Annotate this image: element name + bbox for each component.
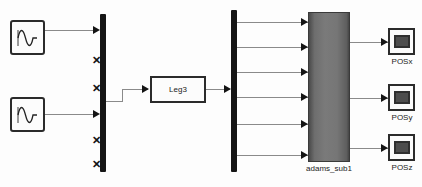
scope-label-posz: POSz [385,163,419,172]
leg3-label: Leg3 [169,85,187,94]
mux-port-x-5: ✕ [92,136,101,145]
scope-block-posx[interactable] [388,28,415,55]
wire-source2-to-mux [45,114,96,115]
leg3-subsystem-block[interactable]: Leg3 [150,76,206,103]
scope-icon [394,91,410,104]
scope-icon [394,141,410,154]
sine-source-block-1[interactable] [10,20,45,55]
wire-demux-to-adams-1 [237,22,308,23]
mux-port-x-6: ✕ [92,160,101,169]
wire-source1-to-mux [45,30,96,31]
scope-block-posz[interactable] [388,134,415,161]
wire-mux-out-jog [122,89,123,102]
scope-label-posx: POSx [385,57,419,66]
adams-sub1-label: adams_sub1 [298,164,360,173]
adams-input-arrow-2 [301,43,308,51]
adams-sub1-block[interactable] [308,12,350,162]
mux-port-arrow-4 [93,110,100,118]
adams-input-arrow-4 [301,93,308,101]
wire-demux-to-adams-6 [237,155,308,156]
block-diagram-canvas: ✕ ✕ ✕ ✕ Leg3 adams_sub1 POSx POS [0,0,422,187]
sine-source-block-2[interactable] [10,97,45,132]
demux-input-arrow [224,85,231,93]
sine-wave-icon [15,104,40,126]
mux-port-arrow-1 [93,26,100,34]
adams-input-arrow-6 [301,151,308,159]
wire-demux-to-adams-5 [237,124,308,125]
posy-input-arrow [381,94,388,102]
adams-input-arrow-5 [301,120,308,128]
scope-icon [394,35,410,48]
adams-input-arrow-3 [301,68,308,76]
posx-input-arrow [381,38,388,46]
output-demux-bar[interactable] [231,10,237,172]
scope-block-posy[interactable] [388,84,415,111]
scope-label-posy: POSy [385,113,419,122]
wire-demux-to-adams-2 [237,47,308,48]
posz-input-arrow [381,144,388,152]
leg3-input-arrow [142,85,149,93]
wire-demux-to-adams-3 [237,72,308,73]
mux-port-x-3: ✕ [92,84,101,93]
mux-port-x-2: ✕ [92,56,101,65]
wire-mux-out-seg1 [106,101,122,102]
wire-demux-to-adams-4 [237,97,308,98]
sine-wave-icon [15,27,40,49]
adams-input-arrow-1 [301,18,308,26]
